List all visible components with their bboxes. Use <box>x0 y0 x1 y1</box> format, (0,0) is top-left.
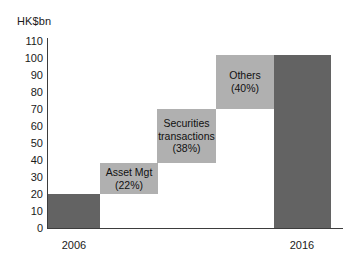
bar-label: Securitiestransactions(38%) <box>157 117 216 155</box>
bar-others: Others(40%) <box>216 55 274 109</box>
x-axis-label-2006: 2006 <box>44 239 104 251</box>
bar-2006 <box>48 194 100 228</box>
bar-2016 <box>274 55 331 228</box>
bar-label-line: (22%) <box>101 179 157 192</box>
bar-label-line: transactions <box>158 130 215 143</box>
bar-securities-transactions: Securitiestransactions(38%) <box>157 109 216 163</box>
bar-label-line: Asset Mgt <box>101 166 157 179</box>
bar-asset-mgt: Asset Mgt(22%) <box>100 163 158 194</box>
bar-label-line: (38%) <box>158 142 215 155</box>
plot-area: Asset Mgt(22%)Securitiestransactions(38%… <box>0 0 343 267</box>
bar-label-line: Others <box>217 69 273 82</box>
x-axis-label-2016: 2016 <box>272 239 332 251</box>
bar-label: Others(40%) <box>216 69 274 94</box>
bar-label-line: (40%) <box>217 82 273 95</box>
bar-label-line: Securities <box>158 117 215 130</box>
waterfall-chart: HK$bn 1101009080706050403020100 Asset Mg… <box>0 0 343 267</box>
bar-label: Asset Mgt(22%) <box>100 166 158 191</box>
